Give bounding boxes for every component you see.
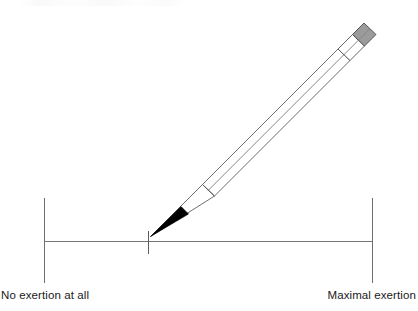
pencil-graphite-tip xyxy=(151,207,189,237)
scale-and-pencil-graphic xyxy=(0,0,418,311)
scale-right-anchor-label: Maximal exertion xyxy=(327,289,416,302)
exertion-scale-figure: No exertion at all Maximal exertion xyxy=(0,0,418,311)
pencil[interactable] xyxy=(151,23,377,237)
visual-analogue-scale xyxy=(45,198,373,283)
scale-left-anchor-label: No exertion at all xyxy=(1,289,89,302)
pencil-facet-line xyxy=(208,55,344,191)
